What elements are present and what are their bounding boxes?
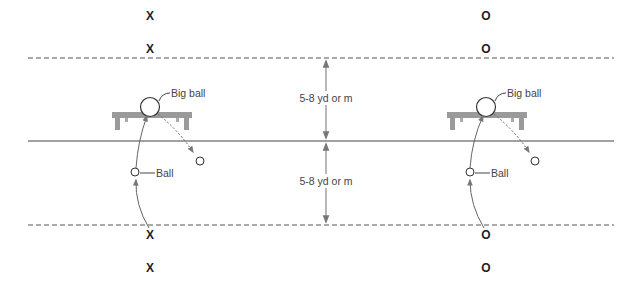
big-ball-icon (141, 98, 160, 117)
big-ball-label: Big ball (507, 87, 541, 99)
player-x-bottom-1: X (146, 228, 154, 242)
run-arrow (136, 180, 149, 228)
drill-diagram: 5-8 yd or m 5-8 yd or m X X X X Big ball (0, 0, 639, 285)
ball-label: Ball (156, 167, 174, 179)
player-o-bottom-2: O (481, 261, 490, 275)
pass-arrow (136, 116, 147, 168)
player-o-bottom-1: O (481, 228, 490, 242)
player-x-top-2: X (146, 42, 154, 56)
run-arrow (470, 180, 484, 228)
player-x-top-1: X (146, 9, 154, 23)
big-ball-label: Big ball (171, 87, 205, 99)
rebound-ball-icon (196, 157, 204, 165)
player-x-bottom-2: X (146, 261, 154, 275)
ball-icon (131, 168, 139, 176)
station-o: O O O O Big ball Ball (447, 9, 541, 275)
distance-marker-upper: 5-8 yd or m (294, 61, 358, 138)
rebound-ball-icon (531, 157, 539, 165)
ball-icon (466, 168, 474, 176)
distance-label-lower: 5-8 yd or m (299, 175, 352, 187)
distance-label-upper: 5-8 yd or m (299, 92, 352, 104)
station-x: X X X X Big ball Ball (112, 9, 205, 275)
big-ball-icon (477, 98, 496, 117)
pass-arrow (470, 116, 483, 168)
player-o-top-1: O (481, 9, 490, 23)
player-o-top-2: O (481, 42, 490, 56)
distance-marker-lower: 5-8 yd or m (294, 144, 358, 222)
ball-label: Ball (491, 167, 509, 179)
